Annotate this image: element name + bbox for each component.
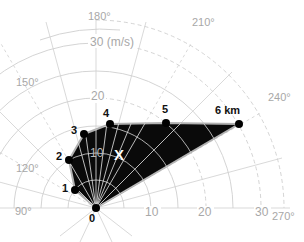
speed-label-30: 30 bbox=[255, 205, 269, 219]
point-6 bbox=[235, 120, 243, 128]
angle-label-210: 210° bbox=[192, 16, 215, 28]
point-label-6km: 6 km bbox=[215, 104, 240, 116]
point-3 bbox=[80, 130, 88, 138]
hodograph-chart: 0 1 2 3 4 5 6 km X 180° 210° 240° 150° 1… bbox=[0, 0, 304, 242]
point-4 bbox=[106, 120, 114, 128]
speed-label-30-top: 30 (m/s) bbox=[90, 35, 134, 49]
point-0 bbox=[92, 204, 100, 212]
spoke-lower-4 bbox=[96, 208, 132, 236]
point-label-0: 0 bbox=[89, 212, 95, 224]
angle-label-150: 150° bbox=[16, 76, 39, 88]
point-label-5: 5 bbox=[162, 103, 168, 115]
point-5 bbox=[162, 119, 170, 127]
speed-label-20: 20 bbox=[198, 205, 212, 219]
angle-label-270: 270° bbox=[272, 210, 295, 222]
angle-label-240: 240° bbox=[268, 91, 291, 103]
point-label-1: 1 bbox=[62, 182, 68, 194]
angle-label-120: 120° bbox=[16, 162, 39, 174]
angle-label-180: 180° bbox=[88, 10, 111, 22]
point-2 bbox=[65, 156, 73, 164]
point-label-4: 4 bbox=[103, 107, 110, 119]
spoke-lower-3 bbox=[96, 208, 112, 242]
speed-label-10-inner: 10 bbox=[90, 146, 104, 160]
speed-label-10: 10 bbox=[145, 205, 159, 219]
angle-label-90: 90° bbox=[15, 205, 32, 217]
speed-label-20-top: 20 bbox=[91, 89, 105, 103]
storm-motion-marker: X bbox=[114, 146, 124, 163]
point-label-2: 2 bbox=[56, 150, 62, 162]
point-1 bbox=[71, 186, 79, 194]
point-label-3: 3 bbox=[71, 124, 77, 136]
